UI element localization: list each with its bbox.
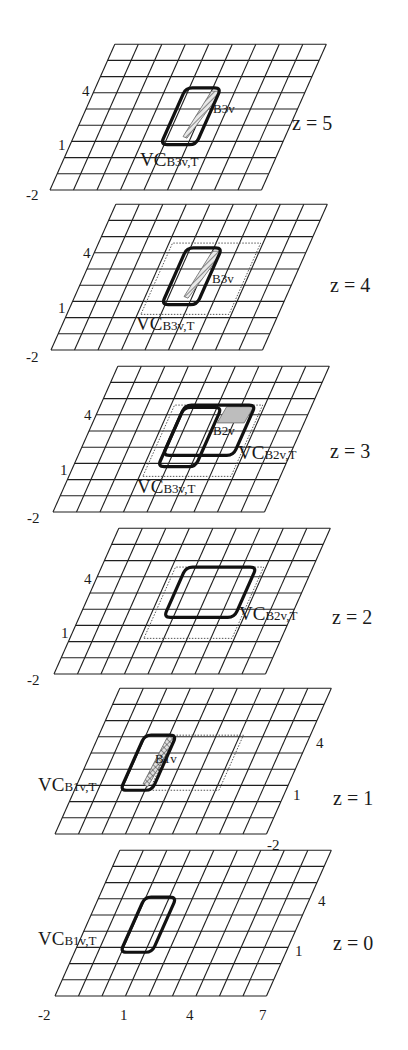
axis-tick-label: -2 [38,1007,51,1023]
shape-label: VCB2v,T [238,442,296,463]
axis-tick-label: 4 [84,407,92,423]
axis-tick-label: 4 [186,1007,194,1023]
grid-line-vertical [172,528,237,674]
layer-0: 41-2VCB3v,TB3vz = 5 [26,44,332,203]
grid-line-vertical [241,366,306,512]
grid-line-vertical [215,44,280,190]
grid-line-vertical [125,528,190,674]
grid-line-vertical [195,528,260,674]
shape-label: B1v [155,751,177,766]
grid-line-vertical [243,688,308,834]
layer-1: 41-2VCB3v,TB3vz = 4 [26,204,370,365]
axis-tick-label: 4 [83,245,91,261]
axis-tick-label: -2 [27,672,40,688]
layer-2: 41-2VCB3v,TB2vVCB2v,Tz = 3 [27,366,370,526]
z-level-label: z = 3 [330,440,370,462]
grid-line-vertical [263,204,328,350]
grid-line-vertical [78,528,143,674]
shape-label: B3v [212,271,234,286]
grid-line-vertical [267,688,332,834]
layers-group: 41-2VCB3v,TB3vz = 541-2VCB3v,TB3vz = 441… [26,44,373,1023]
grid-line-vertical [148,528,213,674]
grid-line-vertical [173,850,238,996]
z-level-label: z = 1 [333,787,373,809]
grid-line-vertical [196,688,261,834]
shape-label: VCB1v,T [38,774,96,795]
grid-line-vertical [75,204,140,350]
shape-label: VCB3v,T [140,149,198,170]
grid-line-vertical [265,366,330,512]
grid [55,850,331,996]
grid-line-vertical [196,850,261,996]
grid-line-vertical [101,528,166,674]
grid-line-vertical [149,850,214,996]
axis-tick-label: 4 [82,83,90,99]
axis-tick-label: -2 [27,510,40,526]
shape-label: B2v [213,423,235,438]
axis-tick-label: 7 [259,1007,267,1023]
shape-label: B3v [213,101,235,116]
z-level-label: z = 4 [330,274,370,296]
grid-line-vertical [220,688,285,834]
shape-label: VCB2v,T [239,603,297,624]
axis-tick-label: 4 [316,735,324,751]
axis-tick-label: -2 [26,349,39,365]
grid-line-vertical [218,366,283,512]
layer-4: 41-2VCB1v,TB1vz = 1 [38,688,373,853]
grid [55,688,331,834]
axis-tick-label: 4 [318,893,326,909]
axis-tick-label: 1 [61,625,69,641]
z-level-label: z = 5 [292,112,332,134]
z-level-label: z = 2 [332,606,372,628]
grid-line-vertical [194,366,259,512]
grid-line-vertical [55,688,120,834]
axis-tick-label: -2 [26,187,39,203]
grid-line-vertical [77,366,142,512]
grid-line-vertical [53,366,118,512]
grid-line-vertical [126,850,191,996]
axis-tick-label: 1 [120,1007,128,1023]
grid-line-vertical [54,528,119,674]
grid-line-vertical [220,850,285,996]
axis-tick-label: 4 [84,571,92,587]
grid-line-vertical [51,204,116,350]
layer-3: 41-2VCB2v,Tz = 2 [27,528,372,688]
grid-line-vertical [55,850,120,996]
grid-line-vertical [266,528,331,674]
grid-line-vertical [243,850,308,996]
grid [54,528,330,674]
layer-5: 41-2147VCB1v,Tz = 0 [38,850,373,1023]
grid-line-vertical [50,44,115,190]
axis-tick-label: 1 [58,300,66,316]
grid-line-vertical [173,688,238,834]
z-level-label: z = 0 [333,932,373,954]
grid-line-vertical [74,44,139,190]
grid-line-vertical [219,528,284,674]
axis-tick-label: 1 [58,137,66,153]
axis-tick-label: 1 [60,462,68,478]
grid-line-vertical [242,528,307,674]
axis-tick-label: 1 [293,787,301,803]
layered-voxel-diagram: 41-2VCB3v,TB3vz = 541-2VCB3v,TB3vz = 441… [0,0,408,1050]
grid-line-vertical [267,850,332,996]
shape-label: VCB3v,T [136,313,194,334]
grid-line-vertical [239,204,304,350]
axis-tick-label: 1 [295,943,303,959]
